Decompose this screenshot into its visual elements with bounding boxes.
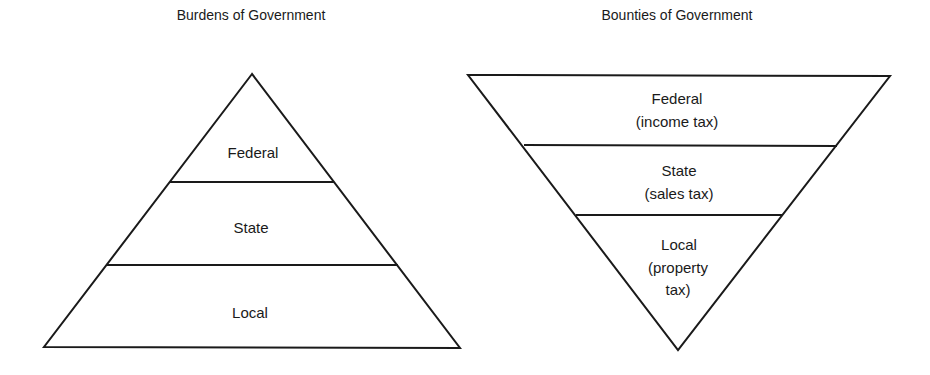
- bounties-level-federal-tax: (income tax): [636, 113, 719, 130]
- bounties-level-federal: Federal: [652, 90, 703, 107]
- diagram-canvas: Burdens of Government Federal State Loca…: [0, 0, 930, 375]
- bounties-title: Bounties of Government: [602, 7, 753, 23]
- bounties-level-local-tax-line2: tax): [665, 281, 690, 298]
- bounties-level-local: Local: [661, 236, 697, 253]
- burdens-diagram: Burdens of Government Federal State Loca…: [44, 7, 460, 348]
- bounties-level-state: State: [661, 162, 696, 179]
- burdens-title: Burdens of Government: [177, 7, 326, 23]
- bounties-divider-federal-state: [524, 145, 837, 146]
- bounties-level-local-tax-line1: (property: [648, 259, 709, 276]
- bounties-diagram: Bounties of Government Federal (income t…: [468, 7, 890, 350]
- burdens-level-state: State: [233, 219, 268, 236]
- burdens-level-federal: Federal: [228, 144, 279, 161]
- burdens-level-local: Local: [232, 304, 268, 321]
- bounties-level-state-tax: (sales tax): [644, 185, 713, 202]
